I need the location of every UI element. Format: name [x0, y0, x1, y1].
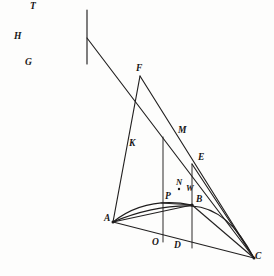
point-label-f: F: [136, 64, 142, 74]
vertex-dot-n: [178, 188, 180, 190]
point-label-e: E: [198, 153, 204, 163]
point-label-p: P: [165, 192, 171, 202]
point-label-m: M: [178, 126, 186, 136]
point-label-c: C: [255, 252, 261, 262]
point-label-n: N: [176, 178, 182, 187]
vertex-dot-b: [191, 204, 194, 207]
geometry-figure: T H G F K M E N W P B A O D C: [0, 0, 274, 276]
point-label-h: H: [14, 32, 21, 42]
point-label-g: G: [25, 58, 32, 68]
point-label-t: T: [30, 2, 36, 12]
vertex-dot-a: [112, 221, 115, 224]
segment-E-C: [192, 164, 254, 258]
point-label-d: D: [174, 241, 181, 251]
geometry-canvas: [0, 0, 274, 276]
curve-A-B-C: [113, 206, 254, 258]
point-label-b: B: [196, 195, 202, 205]
point-label-w: W: [186, 184, 194, 193]
point-label-a: A: [104, 214, 110, 224]
segment-H-C: [87, 38, 254, 258]
point-label-o: O: [152, 238, 159, 248]
point-label-k: K: [129, 139, 135, 149]
segment-F-A: [113, 76, 140, 222]
